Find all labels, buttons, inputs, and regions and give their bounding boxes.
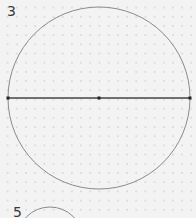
center-point bbox=[98, 97, 101, 100]
circle-figure-3 bbox=[7, 7, 192, 189]
endpoint-left bbox=[7, 97, 10, 100]
circle-figure-5 bbox=[17, 207, 83, 218]
figures bbox=[0, 0, 196, 218]
endpoint-right bbox=[189, 97, 192, 100]
